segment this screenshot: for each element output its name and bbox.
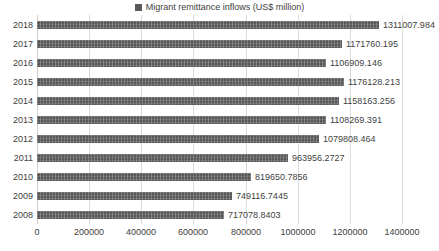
category-label: 2017 (0, 39, 33, 49)
data-label: 1079808.464 (323, 134, 376, 144)
bar (37, 116, 326, 124)
bar-row: 20161106909.146 (0, 53, 439, 72)
data-label: 1108269.391 (330, 115, 382, 125)
bar (37, 135, 319, 143)
bar-track: 1171760.195 (37, 34, 439, 53)
bar-row: 20171171760.195 (0, 34, 439, 53)
x-axis-tick-labels: 0200000400000600000800000100000012000001… (37, 227, 403, 239)
bar-track: 717078.8403 (37, 205, 439, 224)
data-label: 1158163.256 (343, 96, 395, 106)
data-label: 717078.8403 (228, 210, 281, 220)
bar-row: 20181311007.984 (0, 15, 439, 34)
bar (37, 154, 288, 162)
bar-track: 1108269.391 (37, 110, 439, 129)
category-label: 2016 (0, 58, 33, 68)
data-label: 749116.7445 (236, 191, 288, 201)
data-label: 1171760.195 (346, 39, 398, 49)
bar-row: 20141158163.256 (0, 91, 439, 110)
data-label: 963956.2727 (292, 153, 345, 163)
bar-track: 1106909.146 (37, 53, 439, 72)
category-label: 2018 (0, 20, 33, 30)
data-label: 1176128.213 (348, 77, 400, 87)
bar (37, 21, 379, 29)
bar-track: 749116.7445 (37, 186, 439, 205)
bar (37, 211, 224, 219)
x-tick-label: 800000 (231, 227, 261, 237)
x-tick-label: 0 (34, 227, 39, 237)
chart-legend: Migrant remittance inflows (US$ million) (0, 1, 439, 13)
data-label: 1106909.146 (330, 58, 382, 68)
legend-series-marker-icon (135, 4, 142, 11)
category-label: 2011 (0, 153, 33, 163)
category-label: 2014 (0, 96, 33, 106)
x-tick-label: 1400000 (384, 227, 419, 237)
data-label: 1311007.984 (383, 20, 435, 30)
bar-row: 2008717078.8403 (0, 205, 439, 224)
category-label: 2013 (0, 115, 33, 125)
bar-row: 2009749116.7445 (0, 186, 439, 205)
remittance-bar-chart: Migrant remittance inflows (US$ million)… (0, 0, 439, 251)
bar-rows: 20181311007.98420171171760.1952016110690… (0, 15, 439, 224)
bar-track: 1158163.256 (37, 91, 439, 110)
bar-track: 1176128.213 (37, 72, 439, 91)
category-label: 2010 (0, 172, 33, 182)
bar (37, 40, 342, 48)
bar-track: 1311007.984 (37, 15, 439, 34)
data-label: 819650.7856 (255, 172, 308, 182)
bar-row: 20131108269.391 (0, 110, 439, 129)
bar-track: 1079808.464 (37, 129, 439, 148)
x-tick-label: 1200000 (332, 227, 367, 237)
bar-row: 20121079808.464 (0, 129, 439, 148)
x-tick-label: 200000 (74, 227, 104, 237)
legend-series-label: Migrant remittance inflows (US$ million) (146, 1, 305, 13)
bar (37, 59, 326, 67)
bar-row: 20151176128.213 (0, 72, 439, 91)
x-tick-label: 400000 (126, 227, 156, 237)
x-tick-label: 600000 (178, 227, 208, 237)
bar (37, 97, 339, 105)
bar-row: 2010819650.7856 (0, 167, 439, 186)
bar-row: 2011963956.2727 (0, 148, 439, 167)
category-label: 2015 (0, 77, 33, 87)
category-label: 2012 (0, 134, 33, 144)
bar-track: 963956.2727 (37, 148, 439, 167)
bar (37, 192, 232, 200)
bar-track: 819650.7856 (37, 167, 439, 186)
category-label: 2009 (0, 191, 33, 201)
x-tick-label: 1000000 (280, 227, 315, 237)
bar (37, 78, 344, 86)
bar (37, 173, 251, 181)
category-label: 2008 (0, 210, 33, 220)
